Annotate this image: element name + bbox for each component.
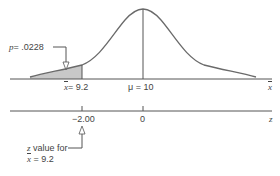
z-tick-0-label: 0 (140, 114, 145, 124)
z-callout-value: = 9.2 (31, 154, 54, 164)
z-callout-arrow-icon (79, 126, 85, 134)
xbar-point-label: x= 9.2 (64, 82, 88, 92)
xbar-point-value: = 9.2 (68, 82, 88, 92)
normal-distribution-figure: p= .0228 x= 9.2 μ = 10 x −2.00 0 z z val… (0, 0, 280, 176)
z-axis-label: z (269, 114, 273, 124)
z-callout-line2: x = 9.2 (27, 154, 54, 164)
z-callout-text: value for (31, 143, 68, 153)
z-callout-leader (68, 133, 82, 148)
p-callout-leader (53, 47, 66, 64)
z-tick-neg2-label: −2.00 (72, 114, 95, 124)
p-value-label: p= .0228 (9, 42, 44, 52)
mean-label: μ = 10 (128, 82, 153, 92)
z-callout-line1: z value for (27, 143, 68, 153)
p-value: = .0228 (14, 42, 44, 52)
xbar-axis-label: x (268, 82, 272, 92)
